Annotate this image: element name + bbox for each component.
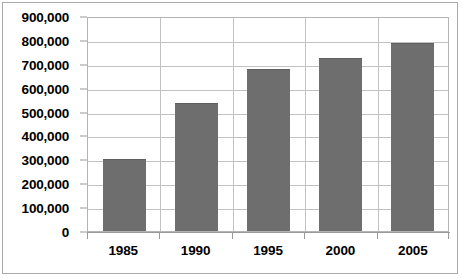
bar-slot (376, 18, 448, 231)
y-axis-tick-mark (80, 184, 87, 185)
x-axis-tick-mark (448, 232, 449, 239)
x-axis-tick-label: 1995 (232, 243, 304, 267)
y-axis-tick-label: 300,000 (22, 153, 69, 168)
bar (103, 159, 146, 231)
y-axis-tick-label: 400,000 (22, 129, 69, 144)
x-axis-tick-label: 2005 (377, 243, 449, 267)
y-axis-tick-mark (80, 64, 87, 65)
x-axis-tick-mark (304, 232, 305, 239)
y-axis-tick-mark (80, 112, 87, 113)
bar (247, 69, 290, 231)
y-axis-tick-mark (80, 208, 87, 209)
bar-slot (88, 18, 160, 231)
y-axis-tick-mark (80, 40, 87, 41)
y-axis: 0100,000200,000300,000400,000500,000600,… (3, 3, 79, 275)
y-axis-tick-label: 600,000 (22, 81, 69, 96)
bar-series (88, 18, 448, 231)
y-axis-tick-label: 500,000 (22, 105, 69, 120)
y-axis-tick-label: 800,000 (22, 33, 69, 48)
x-axis-tick-mark (377, 232, 378, 239)
bar-slot (304, 18, 376, 231)
plot-area (87, 17, 449, 232)
x-axis-tick-mark (159, 232, 160, 239)
y-axis-tick-label: 700,000 (22, 57, 69, 72)
y-axis-tick-mark (80, 232, 87, 233)
y-axis-tick-mark (80, 88, 87, 89)
bar (175, 103, 218, 231)
bar-slot (160, 18, 232, 231)
x-axis-tick-label: 1985 (87, 243, 159, 267)
y-axis-tick-mark (80, 136, 87, 137)
y-axis-tick-mark (80, 17, 87, 18)
y-axis-tick-mark (80, 160, 87, 161)
x-axis-tick-label: 1990 (159, 243, 231, 267)
y-axis-tick-label: 900,000 (22, 10, 69, 25)
y-axis-tick-label: 100,000 (22, 201, 69, 216)
x-axis-ticks (87, 232, 449, 240)
bar (391, 43, 434, 231)
x-axis-tick-mark (87, 232, 88, 239)
chart-frame: 0100,000200,000300,000400,000500,000600,… (2, 2, 458, 274)
bar-chart: 0100,000200,000300,000400,000500,000600,… (3, 3, 459, 275)
x-axis-labels: 19851990199520002005 (87, 243, 449, 267)
x-axis-tick-label: 2000 (304, 243, 376, 267)
bar (319, 58, 362, 231)
y-axis-tick-label: 200,000 (22, 177, 69, 192)
y-axis-tick-label: 0 (62, 225, 69, 240)
x-axis-tick-mark (232, 232, 233, 239)
bar-slot (232, 18, 304, 231)
